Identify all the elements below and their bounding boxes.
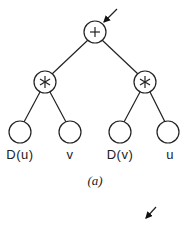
leaf-label-dv: D(v) <box>107 147 134 162</box>
leaf-label-u: u <box>166 147 174 162</box>
pointer-arrow-icon <box>146 207 156 218</box>
figure-caption: (a) <box>87 173 102 189</box>
edge-right-leaf4 <box>150 92 165 122</box>
pointer-arrow-icon <box>104 9 117 22</box>
leaf-label-du: D(u) <box>6 147 33 162</box>
leaf-node-v <box>59 121 81 143</box>
leaf-node-du <box>9 121 31 143</box>
edge-root-right <box>102 40 138 74</box>
leaf-node-dv <box>109 121 131 143</box>
edge-right-leaf3 <box>124 92 140 122</box>
expression-tree-diagram <box>0 0 184 228</box>
edge-left-leaf2 <box>50 92 66 122</box>
leaf-node-u <box>157 121 179 143</box>
edge-root-left <box>52 40 88 74</box>
edge-left-leaf1 <box>24 92 40 122</box>
leaf-label-v: v <box>67 147 74 162</box>
